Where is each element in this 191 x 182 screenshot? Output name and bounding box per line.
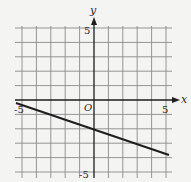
- coordinate-plane: y x O 5 -5 -5 5: [0, 0, 191, 182]
- y-axis-label: y: [89, 4, 97, 17]
- y-min-label: -5: [79, 169, 89, 180]
- x-max-label: 5: [162, 104, 168, 115]
- x-axis-arrow-icon: [172, 97, 180, 103]
- x-axis-label: x: [181, 93, 188, 106]
- x-min-label: -5: [14, 104, 24, 115]
- y-max-label: 5: [84, 25, 90, 36]
- y-axis-arrow-icon: [91, 17, 97, 25]
- origin-label: O: [84, 102, 92, 113]
